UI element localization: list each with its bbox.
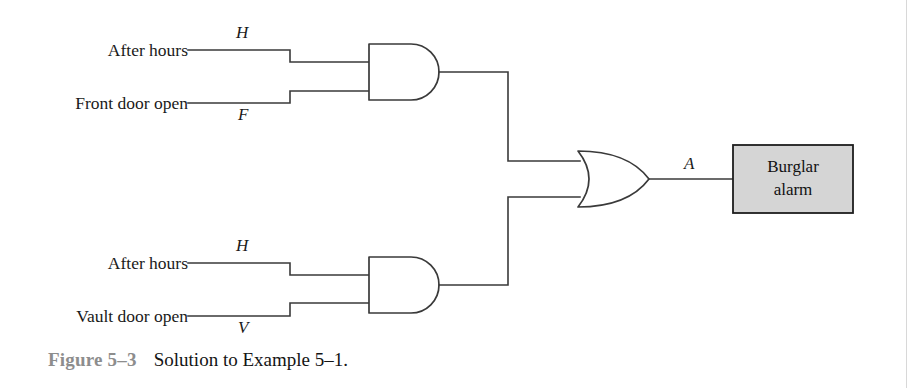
wire-and-top-to-or: [439, 72, 580, 161]
burglar-alarm-label: Burglar alarm: [733, 145, 853, 213]
wire-input-f: [188, 91, 369, 103]
and-gate-bottom: [369, 257, 439, 313]
page-edge-line: [906, 0, 907, 388]
wire-and-bottom-to-or: [439, 197, 580, 285]
input-label-after-hours-bottom: After hours: [48, 253, 188, 274]
burglar-alarm-line1: Burglar: [767, 156, 819, 179]
and-gate-top: [369, 44, 439, 100]
signal-label-v: V: [238, 318, 248, 338]
signal-label-a: A: [684, 154, 694, 174]
input-label-vault-door-open: Vault door open: [28, 306, 188, 327]
figure-number: Figure 5–3: [48, 349, 137, 370]
signal-label-h-bottom: H: [236, 236, 248, 256]
wire-input-h-top: [188, 50, 369, 62]
wire-input-v: [188, 303, 369, 316]
figure-caption-text: Solution to Example 5–1.: [154, 349, 348, 370]
input-label-after-hours-top: After hours: [48, 40, 188, 61]
signal-label-h-top: H: [236, 23, 248, 43]
figure-caption: Figure 5–3Solution to Example 5–1.: [48, 349, 348, 371]
input-label-front-door-open: Front door open: [28, 93, 188, 114]
figure-page: After hours H Front door open F After ho…: [0, 0, 921, 388]
signal-label-f: F: [238, 105, 248, 125]
burglar-alarm-line2: alarm: [774, 179, 813, 202]
wire-input-h-bottom: [188, 263, 369, 275]
or-gate: [578, 151, 649, 207]
